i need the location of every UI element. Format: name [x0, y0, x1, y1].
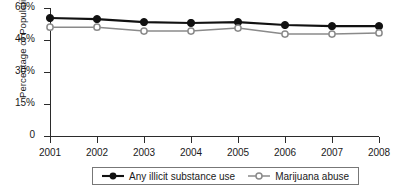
x-tick-label: 2004: [180, 147, 202, 158]
plot-area: 015%30%45%60% 20012002200320042005200620…: [50, 8, 379, 136]
data-point: [46, 14, 53, 21]
legend-label: Marijuana abuse: [275, 171, 349, 182]
y-tick-label: 60%: [15, 1, 35, 12]
x-tick-label: 2007: [321, 147, 343, 158]
legend-item: Any illicit substance use: [102, 171, 235, 182]
x-tick-label: 2005: [227, 147, 249, 158]
data-point: [235, 25, 241, 31]
data-point: [329, 31, 335, 37]
x-tick-label: 2006: [274, 147, 296, 158]
y-tick-label: 30%: [15, 65, 35, 76]
x-tick-label: 2001: [39, 147, 61, 158]
x-tick-label: 2008: [368, 147, 390, 158]
data-point: [47, 24, 53, 30]
data-point: [282, 31, 288, 37]
x-tick: [238, 137, 239, 143]
legend-item: Marijuana abuse: [248, 171, 349, 182]
data-point: [328, 23, 335, 30]
data-point: [281, 21, 288, 28]
legend-label: Any illicit substance use: [129, 171, 235, 182]
y-tick-label: 0: [29, 129, 35, 140]
x-axis-line: [50, 136, 379, 137]
legend-filled-circle-icon: [102, 171, 124, 181]
x-tick: [50, 137, 51, 143]
data-point: [141, 28, 147, 34]
x-tick-label: 2002: [86, 147, 108, 158]
chart-figure: Percentage of Population 015%30%45%60% 2…: [0, 0, 396, 189]
x-tick: [379, 137, 380, 143]
x-tick: [285, 137, 286, 143]
x-tick: [97, 137, 98, 143]
series-layer: [50, 8, 379, 136]
data-point: [93, 15, 100, 22]
data-point: [188, 28, 194, 34]
data-point: [376, 30, 382, 36]
legend-open-circle-icon: [248, 171, 270, 181]
data-point: [187, 19, 194, 26]
data-point: [94, 24, 100, 30]
x-tick: [144, 137, 145, 143]
data-point: [140, 18, 147, 25]
chart-legend: Any illicit substance useMarijuana abuse: [92, 167, 359, 185]
y-tick-label: 45%: [15, 33, 35, 44]
y-tick-label: 15%: [15, 97, 35, 108]
x-tick: [191, 137, 192, 143]
x-tick-label: 2003: [133, 147, 155, 158]
data-point: [375, 23, 382, 30]
x-tick: [332, 137, 333, 143]
